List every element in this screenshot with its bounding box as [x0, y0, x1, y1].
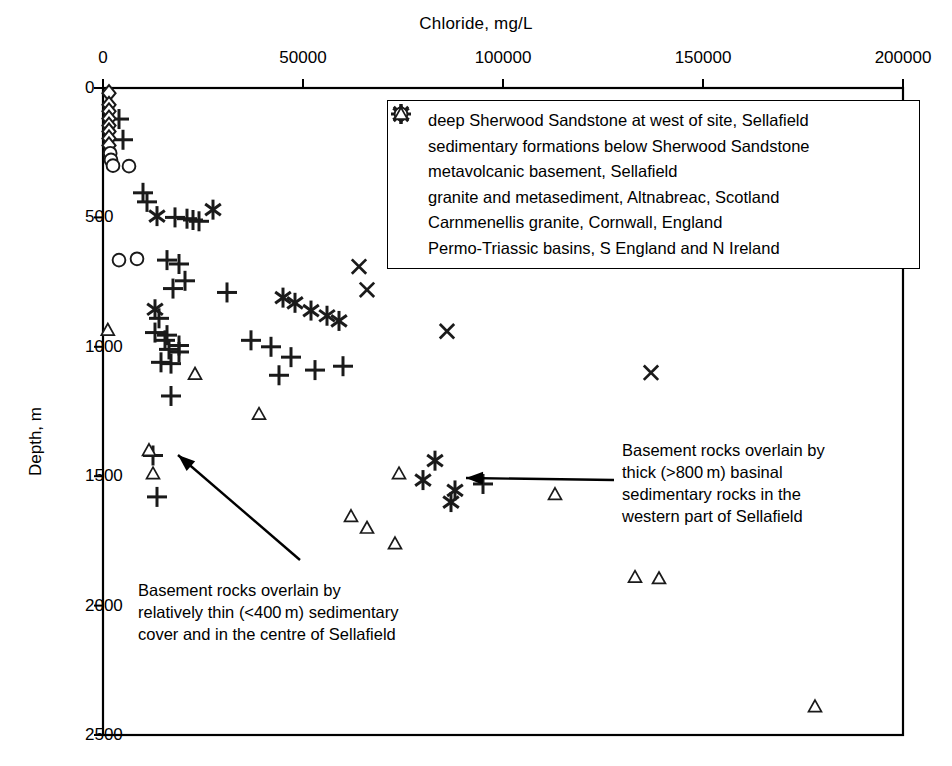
- legend-item-1: sedimentary formations below Sherwood Sa…: [398, 134, 907, 160]
- legend-item-0: deep Sherwood Sandstone at west of site,…: [398, 108, 907, 134]
- legend-item-5: Permo-Triassic basins, S England and N I…: [398, 236, 907, 262]
- circle-marker: [131, 252, 144, 265]
- x-tick-label-4: 200000: [875, 48, 932, 68]
- x-tick-label-2: 100000: [475, 48, 532, 68]
- circle-marker: [113, 254, 126, 267]
- legend-item-2: metavolcanic basement, Sellafield: [398, 159, 907, 185]
- chart-canvas: Chloride, mg/L Depth, m 0500001000001500…: [0, 0, 952, 766]
- triangle-marker: [345, 510, 358, 521]
- legend-marker-glyph: [395, 108, 408, 119]
- triangle-marker: [147, 467, 160, 478]
- legend-item-label: sedimentary formations below Sherwood Sa…: [428, 137, 810, 156]
- x-tick-label-1: 50000: [279, 48, 326, 68]
- triangle-marker: [629, 571, 642, 582]
- left-annotation: Basement rocks overlain by relatively th…: [138, 580, 399, 646]
- circle-marker: [107, 159, 120, 172]
- x-tick-label-0: 0: [98, 48, 107, 68]
- legend-item-label: metavolcanic basement, Sellafield: [428, 162, 677, 181]
- triangle-marker: [189, 368, 202, 379]
- triangle-marker: [253, 408, 266, 419]
- x-tick-label-3: 150000: [675, 48, 732, 68]
- triangle-marker: [549, 488, 562, 499]
- triangle-marker: [653, 572, 666, 583]
- series-3: [102, 85, 115, 153]
- annotation-arrow-0: [178, 455, 300, 560]
- triangle-marker: [361, 522, 374, 533]
- legend-item-label: Permo-Triassic basins, S England and N I…: [428, 239, 780, 258]
- legend-item-4: Carnmenellis granite, Cornwall, England: [398, 210, 907, 236]
- triangle-marker: [395, 108, 408, 119]
- legend-box: deep Sherwood Sandstone at west of site,…: [387, 100, 920, 269]
- triangle-marker: [809, 700, 822, 711]
- triangle-marker: [393, 467, 406, 478]
- right-annotation: Basement rocks overlain by thick (>800 m…: [622, 440, 825, 528]
- annotation-arrow-1: [466, 478, 614, 480]
- triangle-marker: [389, 537, 402, 548]
- legend-item-label: deep Sherwood Sandstone at west of site,…: [428, 111, 809, 130]
- series-0: [352, 259, 658, 380]
- legend-item-label: Carnmenellis granite, Cornwall, England: [428, 213, 722, 232]
- legend-item-3: granite and metasediment, Altnabreac, Sc…: [398, 185, 907, 211]
- circle-marker: [123, 160, 136, 173]
- legend-item-label: granite and metasediment, Altnabreac, Sc…: [428, 188, 779, 207]
